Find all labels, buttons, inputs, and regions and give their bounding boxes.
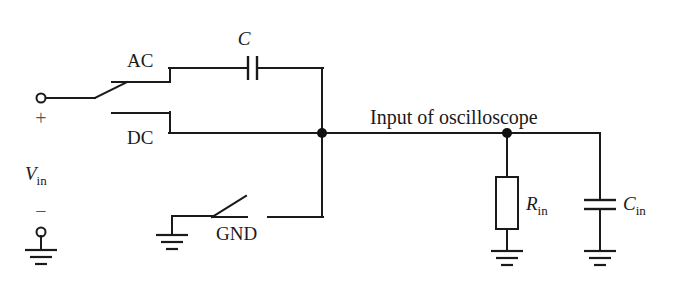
input-capacitor-branch	[584, 133, 616, 265]
coupling-capacitor-label: C	[238, 28, 251, 49]
switch-blade[interactable]	[95, 82, 127, 98]
positive-terminal-circle	[37, 94, 46, 103]
coupling-switch[interactable]	[46, 82, 127, 98]
circuit-schematic-canvas: AC DC GND C Input of oscilloscope Rin Ci…	[0, 0, 673, 285]
input-resistor-body	[496, 177, 518, 229]
input-of-oscilloscope-label: Input of oscilloscope	[370, 106, 538, 129]
gnd-switch-blade[interactable]	[212, 196, 246, 217]
input-capacitance-symbol: C	[623, 193, 636, 214]
plus-sign-label: +	[35, 107, 46, 129]
circuit-diagram: AC DC GND C Input of oscilloscope Rin Ci…	[0, 0, 673, 285]
source-voltage-label: Vin	[25, 163, 47, 188]
dc-label: DC	[127, 127, 153, 148]
input-capacitance-label: Cin	[623, 193, 646, 218]
source-terminal-negative	[25, 228, 57, 265]
ac-label: AC	[127, 50, 153, 71]
input-resistor-branch	[491, 133, 523, 265]
input-resistance-symbol: R	[525, 193, 538, 214]
input-resistance-subscript: in	[538, 203, 549, 218]
scope-input-junction-node	[502, 128, 512, 138]
source-terminal-positive	[37, 94, 46, 103]
input-capacitance-subscript: in	[636, 203, 647, 218]
gnd-label: GND	[216, 223, 257, 244]
left-junction-node	[317, 128, 327, 138]
input-resistance-label: Rin	[525, 193, 548, 218]
source-voltage-subscript: in	[37, 173, 48, 188]
minus-sign-label: −	[35, 200, 46, 222]
